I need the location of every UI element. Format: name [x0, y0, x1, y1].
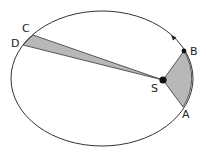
point-b — [182, 49, 187, 54]
sun-point — [159, 76, 166, 83]
label-c: C — [22, 22, 30, 35]
sector-ab — [163, 51, 192, 107]
label-b: B — [190, 45, 198, 58]
direction-arrow-icon — [171, 35, 177, 41]
label-d: D — [11, 37, 19, 50]
label-s: S — [151, 82, 158, 95]
kepler-diagram: S A B C D — [0, 0, 206, 155]
label-a: A — [182, 108, 190, 121]
sector-cd — [23, 35, 163, 80]
